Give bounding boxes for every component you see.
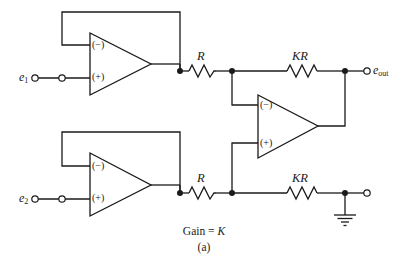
opamp-middle-minus-lead <box>232 71 258 105</box>
resistor-bottom-r-symbol <box>189 187 216 199</box>
caption-gain-prefix: Gain = <box>183 225 218 237</box>
input-terminal-e2 <box>32 196 38 202</box>
opamp-top-plus-label: (+) <box>92 72 104 82</box>
opamp-middle-plus-lead <box>232 143 258 193</box>
input-label-e2: e2 <box>19 192 28 206</box>
output-terminal-eout <box>364 68 370 74</box>
input-terminal-e1 <box>32 75 38 81</box>
opamp-middle-output-lead <box>318 74 345 126</box>
opamp-bottom-plus-label: (+) <box>92 193 104 203</box>
node-opamp-bottom-output <box>177 190 183 196</box>
resistor-bottom-kr-symbol <box>287 187 317 199</box>
resistor-top-kr-symbol <box>287 65 317 77</box>
input-label-e2-subscript: 2 <box>24 197 28 206</box>
caption-gain-symbol: K <box>217 225 225 237</box>
resistor-top-kr-label: KR <box>292 50 308 63</box>
opamp-top-minus-label: (−) <box>92 40 104 50</box>
node-middle-plus-bottom <box>229 190 235 196</box>
opamp-bottom-output-lead <box>151 185 180 193</box>
resistor-top-r-symbol <box>189 65 216 77</box>
figure-caption-subfigure: (a) <box>0 242 408 254</box>
opamp-middle-plus-label: (+) <box>260 138 272 148</box>
ground-icon <box>334 193 356 226</box>
input-node-e1 <box>59 75 65 81</box>
input-label-e1-subscript: 1 <box>24 76 28 85</box>
resistor-top-r-label: R <box>197 50 205 63</box>
node-output <box>342 68 348 74</box>
opamp-middle-minus-label: (−) <box>260 100 272 110</box>
figure-caption-gain: Gain = K <box>0 226 408 238</box>
opamp-bottom-minus-label: (−) <box>92 161 104 171</box>
opamp-top-output-lead <box>151 64 180 71</box>
input-label-e1: e1 <box>19 71 28 85</box>
circuit-figure: (−) (+) (−) (+) (−) (+) R KR R KR e1 e2 … <box>0 0 408 264</box>
output-label-eout: eout <box>373 64 389 78</box>
terminal-ground-side <box>364 190 370 196</box>
node-opamp-top-output <box>177 68 183 74</box>
resistor-bottom-kr-label: KR <box>292 172 308 185</box>
resistor-bottom-r-label: R <box>197 172 205 185</box>
output-label-eout-subscript: out <box>378 69 388 78</box>
input-node-e2 <box>59 196 65 202</box>
